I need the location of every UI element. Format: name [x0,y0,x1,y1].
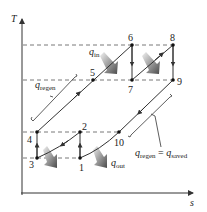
process-7-8 [132,45,173,80]
point-9 [171,78,175,82]
t-axis-label: T [11,13,18,24]
point-3 [35,156,39,160]
label-q-in: qin [89,46,100,59]
s-axis-label: s [190,197,194,208]
label-q-regen-equals-q-saved: qregen = qsaved [135,147,188,160]
label-point-4: 4 [27,134,32,145]
label-q-regen-left: qregen [35,79,56,92]
label-point-8: 8 [170,32,175,43]
label-point-10: 10 [114,137,124,148]
label-point-5: 5 [90,67,95,78]
point-4 [35,130,39,134]
process-2-3 [37,132,80,158]
label-point-6: 6 [128,32,133,43]
q-in-arrow-2 [142,52,160,74]
arrow-4-5 [72,93,79,100]
q-regen-right-sub: regen [140,152,156,160]
arrow-7-8 [155,54,162,60]
equals-sign: = [156,147,167,158]
arrow-9-10 [139,107,145,113]
q-in-arrow-1 [100,52,118,74]
ts-diagram: T s [0,0,207,212]
q-saved-sub: saved [171,152,187,160]
point-1 [78,156,82,160]
point-6 [130,43,134,47]
q-out-sub: out [116,162,125,170]
q-regen-left-sub: regen [40,84,56,92]
label-q-out: qout [111,157,125,170]
arrow-2-3 [62,141,68,145]
point-10 [117,130,121,134]
point-5 [91,78,95,82]
axes: T s [11,13,194,208]
point-8 [171,43,175,47]
q-out-arrow-2 [93,146,107,168]
point-7 [130,78,134,82]
q-in-sub: in [94,51,100,59]
label-point-9: 9 [177,76,182,87]
label-point-1: 1 [79,162,84,173]
label-point-2: 2 [82,121,87,132]
label-point-7: 7 [128,84,133,95]
label-point-3: 3 [29,159,34,170]
